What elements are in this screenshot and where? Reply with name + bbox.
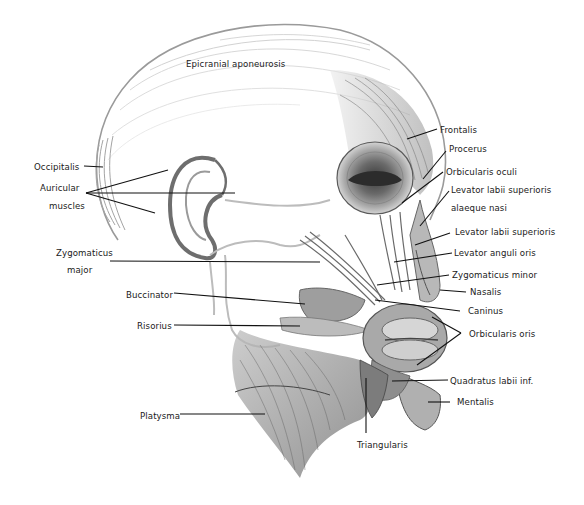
label-orbicularis-oris: Orbicularis oris — [469, 329, 535, 339]
label-zygomaticus-major-line1: Zygomaticus — [56, 248, 113, 258]
label-epicranial-aponeurosis: Epicranial aponeurosis — [186, 59, 285, 69]
label-levator-labii-superioris: Levator labii superioris — [455, 227, 555, 237]
anatomy-diagram: Epicranial aponeurosis Occipitalis Auric… — [0, 0, 584, 505]
label-procerus: Procerus — [449, 144, 487, 154]
label-nasalis: Nasalis — [470, 287, 501, 297]
buccinator-muscle — [299, 288, 365, 322]
label-triangularis: Triangularis — [357, 440, 408, 450]
label-zygomaticus-minor: Zygomaticus minor — [452, 270, 537, 280]
label-auricular-muscles-line1: Auricular — [40, 183, 80, 193]
platysma-muscle — [232, 330, 371, 478]
label-occipitalis: Occipitalis — [34, 162, 79, 172]
label-frontalis: Frontalis — [440, 125, 477, 135]
label-orbicularis-oculi: Orbicularis oculi — [446, 167, 517, 177]
label-risorius: Risorius — [137, 321, 172, 331]
label-buccinator: Buccinator — [126, 290, 173, 300]
nasalis-muscle — [410, 200, 440, 302]
label-levator-labii-sup-alaeque-line2: alaeque nasi — [451, 203, 507, 213]
label-auricular-muscles-line2: muscles — [49, 201, 85, 211]
label-zygomaticus-major-line2: major — [67, 265, 92, 275]
label-caninus: Caninus — [468, 306, 503, 316]
label-platysma: Platysma — [140, 411, 180, 421]
label-levator-anguli-oris: Levator anguli oris — [454, 248, 536, 258]
label-levator-labii-sup-alaeque-line1: Levator labii superioris — [451, 185, 551, 195]
ear — [170, 158, 226, 258]
risorius-muscle — [280, 317, 370, 336]
label-mentalis: Mentalis — [457, 397, 494, 407]
label-quadratus-labii-inf: Quadratus labii inf. — [450, 376, 533, 386]
